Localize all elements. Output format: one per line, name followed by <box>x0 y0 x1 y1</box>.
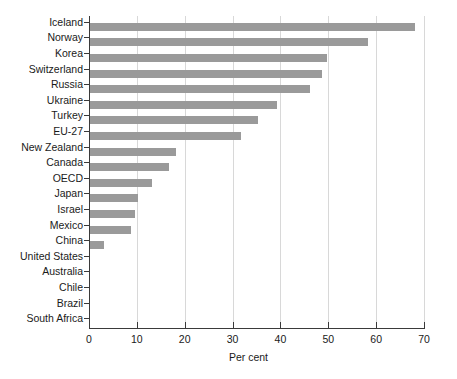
y-tick <box>84 303 90 304</box>
x-tick-label: 70 <box>418 333 430 345</box>
category-label: South Africa <box>5 312 89 324</box>
category-label: Russia <box>5 78 89 90</box>
gridline <box>328 16 329 328</box>
category-label: Korea <box>5 47 89 59</box>
x-axis-line <box>89 328 425 329</box>
category-label: OECD <box>5 172 89 184</box>
x-tick-label: 60 <box>370 333 382 345</box>
x-tick-label: 20 <box>179 333 191 345</box>
gridline <box>280 16 281 328</box>
bar <box>90 101 277 109</box>
category-label: Australia <box>5 265 89 277</box>
y-axis-line <box>89 16 90 329</box>
y-tick <box>84 271 90 272</box>
category-label: Brazil <box>5 297 89 309</box>
bar <box>90 38 368 46</box>
bar <box>90 85 310 93</box>
category-label: Switzerland <box>5 63 89 75</box>
category-label: Ukraine <box>5 94 89 106</box>
gridline <box>233 16 234 328</box>
category-label: Canada <box>5 156 89 168</box>
gridline <box>185 16 186 328</box>
x-tick-label: 30 <box>227 333 239 345</box>
y-axis-category-labels: IcelandNorwayKoreaSwitzerlandRussiaUkrai… <box>0 0 89 379</box>
category-label: Israel <box>5 203 89 215</box>
y-tick <box>84 287 90 288</box>
bar <box>90 179 152 187</box>
x-tick-label: 50 <box>322 333 334 345</box>
category-label: Chile <box>5 281 89 293</box>
bar <box>90 70 322 78</box>
bar <box>90 132 241 140</box>
category-label: China <box>5 234 89 246</box>
bar <box>90 241 104 249</box>
y-tick <box>84 318 90 319</box>
x-tick-label: 40 <box>275 333 287 345</box>
x-tick-label: 10 <box>131 333 143 345</box>
bar-chart: 010203040506070 IcelandNorwayKoreaSwitze… <box>0 0 457 379</box>
bar <box>90 23 415 31</box>
x-axis-title: Per cent <box>0 351 457 363</box>
bar <box>90 116 258 124</box>
category-label: EU-27 <box>5 125 89 137</box>
y-tick <box>84 256 90 257</box>
bar <box>90 54 327 62</box>
gridline <box>376 16 377 328</box>
bar <box>90 194 138 202</box>
category-label: Norway <box>5 31 89 43</box>
category-label: Mexico <box>5 219 89 231</box>
category-label: Turkey <box>5 109 89 121</box>
category-label: United States <box>5 250 89 262</box>
gridline <box>137 16 138 328</box>
category-label: Iceland <box>5 16 89 28</box>
x-axis-title-text: Per cent <box>229 351 268 363</box>
category-label: Japan <box>5 187 89 199</box>
category-label: New Zealand <box>5 141 89 153</box>
bar <box>90 226 131 234</box>
bar <box>90 163 169 171</box>
bar <box>90 148 176 156</box>
gridline <box>424 16 425 328</box>
bar <box>90 210 135 218</box>
